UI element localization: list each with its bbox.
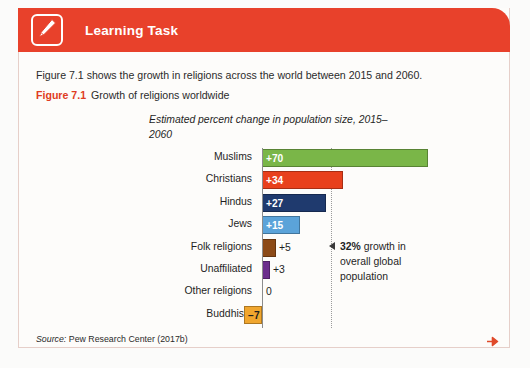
- chart-plot-area: Muslims +70 Christians +34 Hindus: [18, 148, 510, 328]
- reference-annotation: 32% growth in overall global population: [340, 240, 436, 284]
- bar-value-label: +70: [266, 152, 283, 166]
- bar-label: Hindus: [220, 196, 252, 207]
- bar-christians: +34: [262, 171, 343, 189]
- figure-caption: Figure 7.1Growth of religions worldwide: [36, 89, 229, 101]
- annotation-value: 32%: [340, 241, 361, 252]
- bar-value-label: +34: [266, 174, 283, 188]
- source-text: Pew Research Center (2017b): [66, 334, 187, 344]
- table-row: Buddhists −7: [18, 305, 510, 327]
- pencil-edit-icon: [31, 14, 63, 46]
- zero-axis-line: [262, 148, 263, 328]
- source-line: Source: Pew Research Center (2017b): [36, 334, 188, 344]
- figure-caption-text: Growth of religions worldwide: [91, 89, 229, 101]
- table-row: Other religions 0: [18, 282, 510, 304]
- bar-label: Other religions: [184, 285, 252, 296]
- card-title: Learning Task: [85, 23, 178, 38]
- bar-buddhists: −7: [244, 306, 262, 324]
- figure-number: Figure 7.1: [36, 89, 86, 101]
- bar-value-label: +27: [266, 197, 283, 211]
- bar-label: Christians: [206, 173, 252, 184]
- bar-hindus: +27: [262, 194, 326, 212]
- intro-text: Figure 7.1 shows the growth in religions…: [36, 68, 466, 82]
- bar-value-label: −7: [248, 309, 260, 323]
- bar-folk-religions: [262, 239, 276, 257]
- card-header: Learning Task: [18, 8, 510, 52]
- bar-chart: Estimated percent change in population s…: [18, 108, 510, 333]
- table-row: Jews +15: [18, 215, 510, 237]
- table-row: Hindus +27: [18, 193, 510, 215]
- bar-value-label: 0: [266, 286, 272, 297]
- chart-title: Estimated percent change in population s…: [149, 112, 409, 142]
- bar-label: Folk religions: [191, 241, 252, 252]
- table-row: Christians +34: [18, 170, 510, 192]
- bar-jews: +15: [262, 216, 300, 234]
- bar-label: Unaffiliated: [200, 263, 252, 274]
- bar-value-label: +15: [266, 219, 283, 233]
- bar-label: Muslims: [214, 151, 252, 162]
- bar-label: Jews: [228, 218, 252, 229]
- page-canvas: Learning Task Figure 7.1 shows the growt…: [0, 0, 530, 368]
- left-triangle-icon: [329, 242, 335, 250]
- table-row: Muslims +70: [18, 148, 510, 170]
- bar-muslims: +70: [262, 149, 428, 167]
- source-label: Source:: [36, 334, 66, 344]
- bar-value-label: +3: [273, 264, 285, 275]
- bar-value-label: +5: [279, 242, 291, 253]
- table-row: Folk religions +5: [18, 238, 510, 260]
- right-arrow-icon[interactable]: [487, 333, 501, 351]
- table-row: Unaffiliated +3: [18, 260, 510, 282]
